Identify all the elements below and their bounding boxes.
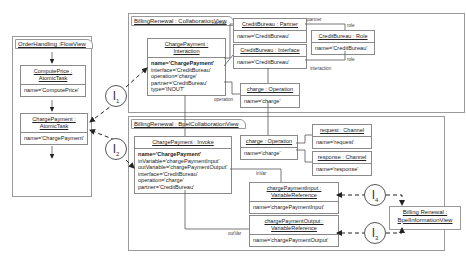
role-label-1: role [347, 23, 355, 28]
partner-label: partner [212, 21, 227, 26]
link-i1[interactable]: I1 [105, 85, 127, 107]
link-i2[interactable]: I2 [105, 138, 127, 160]
invar-label: inVar [256, 171, 266, 176]
connector-lines [0, 0, 466, 263]
operation-label: operation [214, 97, 233, 102]
link-i4[interactable]: I4 [364, 184, 386, 206]
partner-label-2: partner [307, 17, 322, 22]
role-label-2: role [347, 57, 355, 62]
interaction-label: interaction [310, 66, 331, 71]
outvar-label: outVar [228, 231, 241, 236]
link-i3[interactable]: I3 [364, 222, 386, 244]
